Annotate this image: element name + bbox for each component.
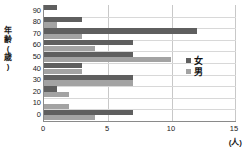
- bar-female-0: [44, 110, 133, 115]
- bar-female-90: [44, 5, 57, 10]
- bar-female-80: [44, 17, 82, 22]
- x-tick-label: 0: [31, 124, 55, 133]
- legend-item-female[interactable]: 女: [186, 55, 230, 66]
- y-tick-label: 80: [19, 18, 41, 26]
- x-tick-label: 5: [95, 124, 119, 133]
- chart-legend: 女 男: [186, 55, 230, 77]
- y-tick-label: 60: [19, 41, 41, 49]
- bar-female-30: [44, 75, 133, 80]
- bar-male-70: [44, 34, 82, 39]
- y-tick-label: 90: [19, 7, 41, 15]
- bar-row-20: [44, 86, 236, 98]
- legend-item-male[interactable]: 男: [186, 66, 230, 77]
- y-axis-title-char: 歳: [1, 53, 15, 62]
- y-axis-title-char: (: [1, 44, 15, 53]
- bar-male-50: [44, 57, 171, 62]
- bar-row-10: [44, 98, 236, 110]
- legend-label: 男: [194, 67, 203, 77]
- y-tick-label: 0: [19, 111, 41, 119]
- y-tick-label: 40: [19, 65, 41, 73]
- x-tick-label: 10: [159, 124, 183, 133]
- legend-swatch-icon: [186, 58, 191, 63]
- bar-row-0: [44, 109, 236, 121]
- bar-male-40: [44, 69, 82, 74]
- y-tick-label: 70: [19, 30, 41, 38]
- bar-male-30: [44, 80, 133, 85]
- bar-female-20: [44, 86, 57, 91]
- bar-row-90: [44, 5, 236, 17]
- y-tick-label: 10: [19, 99, 41, 107]
- bar-row-60: [44, 40, 236, 52]
- bar-male-20: [44, 92, 69, 97]
- bar-female-40: [44, 63, 82, 68]
- y-tick-label: 50: [19, 53, 41, 61]
- bar-male-80: [44, 22, 57, 27]
- bar-male-60: [44, 46, 95, 51]
- bar-female-60: [44, 40, 133, 45]
- legend-label: 女: [194, 56, 203, 66]
- y-axis-title-char: 齢: [1, 35, 15, 44]
- legend-swatch-icon: [186, 69, 191, 74]
- bar-female-70: [44, 28, 197, 33]
- x-tick-label: 15: [222, 124, 246, 133]
- y-tick-label: 30: [19, 76, 41, 84]
- y-axis-title-char: ): [1, 62, 15, 71]
- x-axis-unit-label: (人): [229, 136, 242, 147]
- x-axis-tick-labels: 0 5 10 15: [0, 124, 247, 136]
- y-axis-title: 年 齢 ( 歳 ): [1, 26, 15, 71]
- bar-male-0: [44, 115, 95, 120]
- bar-female-50: [44, 52, 133, 57]
- population-bar-chart: 年 齢 ( 歳 ) 90 80 70 60 50 40 30 20 10 0: [0, 0, 247, 151]
- bar-male-10: [44, 104, 69, 109]
- bar-row-70: [44, 28, 236, 40]
- y-tick-label: 20: [19, 88, 41, 96]
- y-axis-title-char: 年: [1, 26, 15, 35]
- bar-row-80: [44, 17, 236, 29]
